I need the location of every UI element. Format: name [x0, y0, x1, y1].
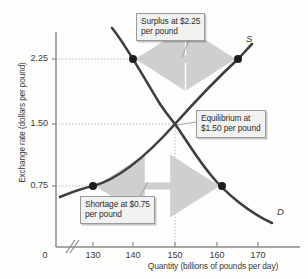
point-demand-at-2-25: [129, 55, 137, 63]
surplus-callout-line2: per pound: [141, 26, 200, 36]
equilibrium-callout-leader: [177, 122, 196, 125]
x-tick-label-0: 0: [30, 250, 60, 260]
equilibrium-callout-line2: $1.50 per pound: [201, 123, 261, 133]
shortage-callout-line1: Shortage at $0.75: [85, 199, 150, 209]
chart-canvas: [0, 0, 308, 279]
x-tick-label-170: 170: [243, 250, 273, 260]
y-axis-label: Exchange rate (dollars per pound): [18, 43, 27, 203]
surplus-callout-line1: Surplus at $2.25: [141, 16, 200, 26]
point-supply-at-2-25: [234, 55, 242, 63]
demand-curve-label: D: [277, 206, 284, 217]
shortage-callout: Shortage at $0.75 per pound: [80, 196, 155, 224]
equilibrium-callout: Equilibrium at $1.50 per pound: [196, 110, 266, 138]
x-tick-label-160: 160: [202, 250, 232, 260]
supply-curve-label: S: [246, 33, 252, 44]
x-tick-label-130: 130: [78, 250, 108, 260]
point-demand-at-0-75: [218, 182, 226, 190]
shortage-callout-line2: per pound: [85, 209, 150, 219]
surplus-callout: Surplus at $2.25 per pound: [136, 13, 205, 41]
x-tick-label-150: 150: [160, 250, 190, 260]
x-axis-label: Quantity (billions of pounds per day): [120, 261, 306, 271]
point-supply-at-0-75: [89, 182, 97, 190]
x-tick-label-140: 140: [118, 250, 148, 260]
supply-demand-chart: 2.25 1.50 0.75 0 130 140 150 160 170 Exc…: [0, 0, 308, 279]
equilibrium-callout-line1: Equilibrium at: [201, 113, 261, 123]
